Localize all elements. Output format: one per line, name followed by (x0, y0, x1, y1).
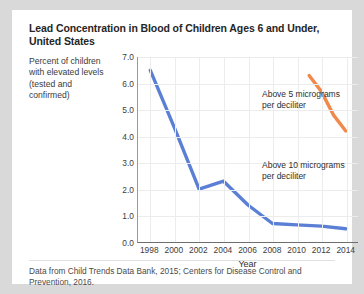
y-tick-label: 2.0 (122, 185, 134, 195)
x-tick-label: 2014 (336, 245, 355, 255)
y-tick-label: 3.0 (122, 158, 134, 168)
x-tick-label: 2002 (189, 245, 208, 255)
gridline-vertical (249, 57, 250, 242)
y-tick-label: 6.0 (122, 79, 134, 89)
y-axis-tick-labels: 0.01.02.03.04.05.06.07.0 (112, 57, 134, 243)
annotation-above-10: Above 10 micrograms per deciliter (262, 160, 345, 181)
gridline-vertical (224, 57, 225, 242)
gridline-vertical (199, 57, 200, 242)
chart-plot: 0.01.02.03.04.05.06.07.0 199820002002200… (112, 57, 358, 243)
gridline-vertical (150, 57, 151, 242)
source-note: Data from Child Trends Data Bank, 2015; … (29, 266, 329, 287)
y-tick-label: 0.0 (122, 238, 134, 248)
plot-area (137, 57, 358, 243)
x-tick-label: 2010 (287, 245, 306, 255)
y-tick-label: 7.0 (122, 52, 134, 62)
annotation-above-5-line2: per deciliter (262, 100, 340, 111)
x-tick-label: 2004 (214, 245, 233, 255)
x-tick-label: 2008 (263, 245, 282, 255)
gridline-vertical (347, 57, 348, 242)
annotation-above-5: Above 5 micrograms per deciliter (262, 89, 340, 110)
y-tick-label: 5.0 (122, 105, 134, 115)
x-tick-label: 2006 (238, 245, 257, 255)
gridline-vertical (273, 57, 274, 242)
gridline-vertical (322, 57, 323, 242)
gridline-vertical (298, 57, 299, 242)
gridline-vertical (175, 57, 176, 242)
x-tick-label: 2000 (165, 245, 184, 255)
page-title: Lead Concentration in Blood of Children … (29, 22, 329, 48)
x-tick-label: 1998 (140, 245, 159, 255)
x-axis-tick-labels: 199820002002200420062008201020122014 (137, 245, 358, 259)
footer-divider (29, 260, 335, 261)
y-axis-caption: Percent of children with elevated levels… (29, 56, 111, 102)
annotation-above-10-line1: Above 10 micrograms (262, 160, 345, 171)
screenshot-root: Lead Concentration in Blood of Children … (0, 0, 364, 294)
chart-card: Lead Concentration in Blood of Children … (12, 10, 352, 284)
y-tick-label: 4.0 (122, 132, 134, 142)
annotation-above-10-line2: per deciliter (262, 171, 345, 182)
annotation-above-5-line1: Above 5 micrograms (262, 89, 340, 100)
y-tick-label: 1.0 (122, 211, 134, 221)
x-tick-label: 2012 (312, 245, 331, 255)
